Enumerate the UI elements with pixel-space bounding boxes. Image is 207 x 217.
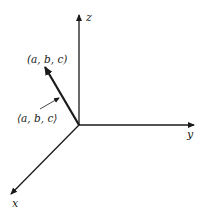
z-axis-label: z xyxy=(86,12,92,23)
coordinate-diagram xyxy=(0,0,207,217)
vector-label: ⟨a, b, c⟩ xyxy=(17,113,57,124)
x-axis-label: x xyxy=(12,198,18,209)
vector-label-pointer xyxy=(40,98,59,109)
point-label: (a, b, c) xyxy=(27,54,67,65)
y-axis-label: y xyxy=(187,129,193,140)
x-axis xyxy=(11,125,79,194)
